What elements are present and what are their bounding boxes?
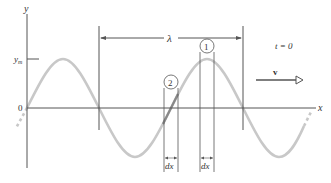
y-axis-label: y <box>23 3 29 14</box>
velocity-arrow <box>256 76 303 84</box>
time-label: t = 0 <box>275 41 293 51</box>
origin-label: 0 <box>18 103 23 113</box>
dx-label-1: dx <box>201 161 210 171</box>
element-2-strip <box>164 75 178 172</box>
element-1-label: 1 <box>204 42 209 52</box>
velocity-label: v <box>273 67 278 77</box>
x-axis-label: x <box>317 102 323 113</box>
wavelength-label: λ <box>166 32 172 44</box>
traveling-wave-diagram: y x 0 ym λ 2 dx 1 dx t = 0 <box>0 0 331 183</box>
amplitude-label: ym <box>13 54 23 65</box>
dx-label-2: dx <box>165 161 174 171</box>
element-2-label: 2 <box>168 78 173 88</box>
